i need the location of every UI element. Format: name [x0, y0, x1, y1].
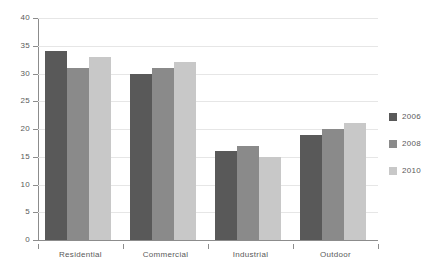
legend-swatch-icon [389, 167, 397, 175]
y-axis-tick-mark [33, 101, 38, 102]
bar-group [45, 18, 111, 240]
y-axis-tick-mark [33, 240, 38, 241]
y-axis-tick-label: 5 [4, 208, 30, 216]
y-axis-tick-mark [33, 212, 38, 213]
bar [130, 74, 152, 241]
y-axis-tick-label: 40 [4, 14, 30, 22]
x-axis-tick-mark [293, 244, 294, 249]
x-axis-tick-mark [378, 244, 379, 249]
legend-label: 2006 [402, 112, 421, 121]
bar [215, 151, 237, 240]
bar-group [300, 18, 366, 240]
bar [174, 62, 196, 240]
bar-chart: 0510152025303540 ResidentialCommercialIn… [0, 0, 439, 266]
y-axis-tick-mark [33, 74, 38, 75]
y-axis-tick-mark [33, 157, 38, 158]
plot-area [38, 18, 378, 240]
legend-label: 2008 [402, 139, 421, 148]
y-axis-tick-mark [33, 185, 38, 186]
x-axis-baseline [38, 240, 378, 241]
y-axis-tick-mark [33, 129, 38, 130]
bar [344, 123, 366, 240]
x-axis-tick-mark [208, 244, 209, 249]
x-axis-tick-mark [38, 244, 39, 249]
bar-group [215, 18, 281, 240]
bar [300, 135, 322, 240]
legend-label: 2010 [402, 166, 421, 175]
y-axis-tick-label: 30 [4, 70, 30, 78]
y-axis-tick-labels: 0510152025303540 [0, 0, 30, 266]
x-axis-tick-label: Industrial [208, 250, 293, 259]
y-axis-tick-label: 0 [4, 236, 30, 244]
x-axis-tick-label: Commercial [123, 250, 208, 259]
bar [237, 146, 259, 240]
x-axis-tick-label: Residential [38, 250, 123, 259]
bar [322, 129, 344, 240]
y-axis-tick-label: 25 [4, 97, 30, 105]
x-axis-tick-mark [123, 244, 124, 249]
y-axis-tick-mark [33, 46, 38, 47]
y-axis-tick-label: 10 [4, 181, 30, 189]
legend-swatch-icon [389, 140, 397, 148]
bar-group [130, 18, 196, 240]
bar [45, 51, 67, 240]
y-axis-tick-label: 15 [4, 153, 30, 161]
legend-swatch-icon [389, 113, 397, 121]
legend-item[interactable]: 2008 [389, 139, 439, 148]
bar [67, 68, 89, 240]
legend-item[interactable]: 2006 [389, 112, 439, 121]
y-axis-tick-mark [33, 18, 38, 19]
bar [152, 68, 174, 240]
bar [89, 57, 111, 240]
bar [259, 157, 281, 240]
legend-item[interactable]: 2010 [389, 166, 439, 175]
x-axis-tick-label: Outdoor [293, 250, 378, 259]
y-axis-tick-label: 20 [4, 125, 30, 133]
chart-legend: 200620082010 [389, 112, 439, 193]
y-axis-tick-label: 35 [4, 42, 30, 50]
x-axis-tick-labels: ResidentialCommercialIndustrialOutdoor [38, 244, 378, 266]
